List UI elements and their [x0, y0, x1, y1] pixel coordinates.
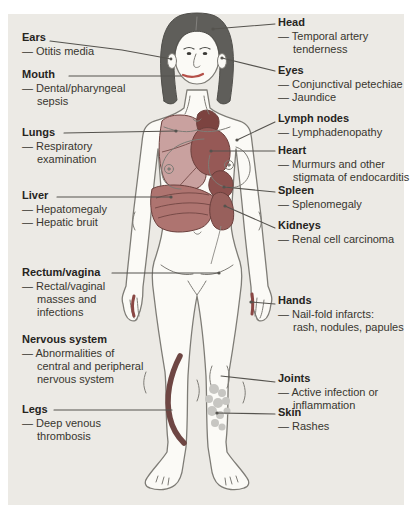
label-finding: masses and [22, 293, 152, 306]
nipple-dot [168, 168, 170, 170]
label-title: Head [278, 16, 410, 29]
label-finding: — Murmurs and other [278, 158, 410, 171]
label-title: Rectum/vagina [22, 266, 152, 279]
label-finding: — Jaundice [278, 91, 410, 104]
liver-organ [151, 185, 213, 232]
label-title: Kidneys [278, 219, 410, 232]
eye [203, 52, 208, 55]
label-eyes: Eyes — Conjunctival petechiae — Jaundice [278, 64, 410, 104]
label-liver: Liver — Hepatomegaly — Hepatic bruit [22, 189, 152, 229]
label-finding: — Respiratory [22, 140, 152, 153]
label-title: Joints [278, 372, 410, 385]
label-title: Ears [22, 31, 152, 44]
label-title: Lymph nodes [278, 112, 410, 125]
label-title: Spleen [278, 184, 410, 197]
label-title: Eyes [278, 64, 410, 77]
label-title: Nervous system [22, 333, 152, 346]
label-finding: rash, nodules, papules [278, 321, 410, 334]
label-finding: examination [22, 153, 152, 166]
label-ears: Ears — Otitis media [22, 31, 152, 58]
label-finding: infections [22, 306, 152, 319]
label-finding: tenderness [278, 43, 410, 56]
label-spleen: Spleen — Splenomegaly [278, 184, 410, 211]
eye [187, 52, 192, 55]
label-finding: — Conjunctival petechiae [278, 78, 410, 91]
label-lymph-nodes: Lymph nodes — Lymphadenopathy [278, 112, 410, 139]
label-finding: — Hepatomegaly [22, 203, 152, 216]
label-head: Head — Temporal artery tenderness [278, 16, 410, 56]
label-finding: nervous system [22, 373, 152, 386]
kidney-organ [210, 192, 234, 230]
label-nervous-system: Nervous system — Abnormalities of centra… [22, 333, 152, 386]
label-finding: thrombosis [22, 430, 152, 443]
label-title: Heart [278, 144, 410, 157]
diagram-page: Ears — Otitis media Mouth — Dental/phary… [0, 0, 412, 523]
label-finding: — Lymphadenopathy [278, 126, 410, 139]
label-finding: — Rashes [278, 420, 410, 433]
label-finding: — Renal cell carcinoma [278, 233, 410, 246]
label-hands: Hands — Nail-fold infarcts: rash, nodule… [278, 294, 410, 334]
label-finding: — Rectal/vaginal [22, 280, 152, 293]
label-finding: — Temporal artery [278, 30, 410, 43]
label-heart: Heart — Murmurs and other stigmata of en… [278, 144, 410, 184]
ear [168, 54, 177, 69]
label-finding: central and peripheral [22, 360, 152, 373]
label-kidneys: Kidneys — Renal cell carcinoma [278, 219, 410, 246]
label-finding: — Dental/pharyngeal [22, 82, 152, 95]
label-finding: — Abnormalities of [22, 347, 152, 360]
label-title: Skin [278, 406, 410, 419]
label-title: Lungs [22, 126, 152, 139]
label-skin: Skin — Rashes [278, 406, 410, 433]
label-title: Hands [278, 294, 410, 307]
label-finding: — Deep venous [22, 417, 152, 430]
ear [218, 54, 227, 69]
label-finding: — Nail-fold infarcts: [278, 308, 410, 321]
label-finding: — Hepatic bruit [22, 216, 152, 229]
label-finding: stigmata of endocarditis [278, 171, 410, 184]
label-title: Legs [22, 403, 152, 416]
label-finding: — Active infection or [278, 386, 410, 399]
label-mouth: Mouth — Dental/pharyngeal sepsis [22, 68, 152, 108]
nail-fold-infarct-mark [252, 294, 253, 314]
label-finding: sepsis [22, 95, 152, 108]
nipple-dot [228, 164, 230, 166]
label-title: Mouth [22, 68, 152, 81]
label-finding: — Otitis media [22, 45, 152, 58]
label-finding: — Splenomegaly [278, 198, 410, 211]
label-legs: Legs — Deep venous thrombosis [22, 403, 152, 443]
label-title: Liver [22, 189, 152, 202]
label-lungs: Lungs — Respiratory examination [22, 126, 152, 166]
label-rectum-vagina: Rectum/vagina — Rectal/vaginal masses an… [22, 266, 152, 319]
